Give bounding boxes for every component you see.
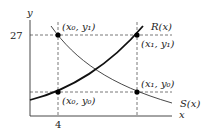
curve-r-label: R(x)	[150, 21, 172, 32]
axes	[30, 20, 172, 116]
point-label-x1-y0: (x₁, y₀)	[141, 78, 175, 89]
point-x1-y1	[134, 32, 139, 37]
point-label-x0-y1: (x₀, y₁)	[62, 21, 96, 32]
x-axis-label: x	[179, 109, 185, 120]
point-label-x1-y1: (x₁, y₁)	[141, 38, 175, 49]
guide-lines	[30, 22, 172, 116]
point-x0-y1	[55, 32, 60, 37]
point-label-x0-y0: (x₀, y₀)	[62, 95, 96, 106]
curve-s-label: S(x)	[180, 98, 200, 109]
point-x1-y0	[134, 89, 139, 94]
point-x0-y0	[55, 89, 60, 94]
y-axis-label: y	[26, 7, 33, 18]
diagram-canvas: y x 27 4 R(x) S(x) (x₀, y₁) (x₁, y₁) (x₀…	[0, 0, 213, 132]
y-tick-label: 27	[10, 30, 23, 41]
x-tick-label: 4	[55, 119, 61, 130]
